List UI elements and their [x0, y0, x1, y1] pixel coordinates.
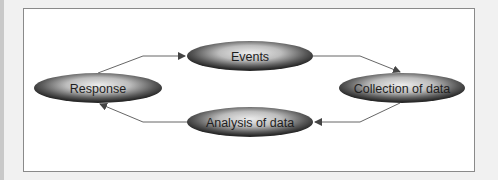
node-collection: Collection of data — [339, 73, 465, 103]
node-response: Response — [34, 73, 162, 103]
edge-analysis-to-response — [100, 104, 188, 122]
node-events-label: Events — [231, 50, 269, 64]
edge-response-to-events — [98, 56, 185, 73]
node-collection-label: Collection of data — [354, 82, 451, 96]
node-response-label: Response — [70, 82, 126, 96]
node-analysis-label: Analysis of data — [206, 116, 294, 130]
cycle-diagram: Events Collection of data Analysis of da… — [0, 0, 498, 180]
node-events: Events — [187, 41, 313, 71]
node-analysis: Analysis of data — [187, 107, 313, 137]
edge-events-to-collection — [313, 56, 400, 72]
edge-collection-to-analysis — [315, 103, 400, 122]
